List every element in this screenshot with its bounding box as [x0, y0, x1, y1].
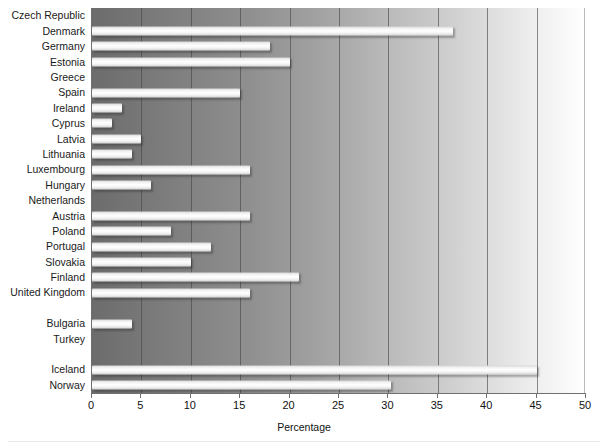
- bar-hungary: [92, 180, 151, 189]
- x-tick-label-15: 15: [233, 399, 245, 411]
- bar-ireland: [92, 104, 122, 113]
- bar-luxembourg: [92, 165, 250, 174]
- x-tick-label-25: 25: [332, 399, 344, 411]
- category-label-luxembourg: Luxembourg: [0, 162, 88, 177]
- category-label-greece: Greece: [0, 70, 88, 85]
- category-axis-labels: Czech RepublicDenmarkGermanyEstoniaGreec…: [0, 8, 88, 393]
- bar-united-kingdom: [92, 288, 250, 297]
- bar-cyprus: [92, 119, 112, 128]
- bar-slovakia: [92, 257, 191, 266]
- x-tick-20: [289, 393, 290, 398]
- plot-area: [91, 8, 585, 393]
- category-label-norway: Norway: [0, 377, 88, 392]
- bar-row: [92, 300, 584, 315]
- category-label-ireland: Ireland: [0, 100, 88, 115]
- category-label-netherlands: Netherlands: [0, 193, 88, 208]
- x-tick-label-50: 50: [579, 399, 591, 411]
- bar-row: [92, 270, 584, 285]
- x-tick-15: [239, 393, 240, 398]
- bar-row: [92, 23, 584, 38]
- category-label-iceland: Iceland: [0, 362, 88, 377]
- chart-screenshot: Czech RepublicDenmarkGermanyEstoniaGreec…: [0, 0, 608, 448]
- bar-poland: [92, 227, 171, 236]
- bar-row: [92, 239, 584, 254]
- bar-row: [92, 8, 584, 23]
- category-label-germany: Germany: [0, 39, 88, 54]
- bar-estonia: [92, 57, 290, 66]
- x-tick-0: [91, 393, 92, 398]
- category-label-austria: Austria: [0, 208, 88, 223]
- bar-row: [92, 208, 584, 223]
- category-label-hungary: Hungary: [0, 177, 88, 192]
- bar-row: [92, 100, 584, 115]
- category-label-united-kingdom: United Kingdom: [0, 285, 88, 300]
- category-label-lithuania: Lithuania: [0, 147, 88, 162]
- x-axis-title: Percentage: [0, 421, 608, 433]
- x-tick-label-35: 35: [431, 399, 443, 411]
- x-tick-label-0: 0: [88, 399, 94, 411]
- x-tick-40: [486, 393, 487, 398]
- x-tick-25: [338, 393, 339, 398]
- bar-row: [92, 254, 584, 269]
- bar-row: [92, 39, 584, 54]
- x-tick-label-20: 20: [282, 399, 294, 411]
- bar-row: [92, 70, 584, 85]
- bar-spain: [92, 88, 240, 97]
- bar-row: [92, 285, 584, 300]
- bar-latvia: [92, 134, 141, 143]
- bar-iceland: [92, 365, 537, 374]
- x-tick-label-40: 40: [480, 399, 492, 411]
- x-tick-label-30: 30: [381, 399, 393, 411]
- category-label-turkey: Turkey: [0, 331, 88, 346]
- bar-bulgaria: [92, 319, 132, 328]
- category-label-poland: Poland: [0, 223, 88, 238]
- bar-row: [92, 331, 584, 346]
- bar-row: [92, 223, 584, 238]
- bar-series: [92, 8, 584, 393]
- bar-row: [92, 85, 584, 100]
- x-tick-45: [536, 393, 537, 398]
- x-tick-10: [190, 393, 191, 398]
- bar-germany: [92, 42, 270, 51]
- bar-row: [92, 347, 584, 362]
- category-label-bulgaria: Bulgaria: [0, 316, 88, 331]
- x-tick-35: [437, 393, 438, 398]
- bar-row: [92, 147, 584, 162]
- bar-row: [92, 131, 584, 146]
- bar-denmark: [92, 27, 453, 36]
- category-label-blank: [0, 347, 88, 362]
- category-label-estonia: Estonia: [0, 54, 88, 69]
- bar-row: [92, 193, 584, 208]
- bar-row: [92, 54, 584, 69]
- x-tick-50: [585, 393, 586, 398]
- category-label-denmark: Denmark: [0, 23, 88, 38]
- x-tick-label-10: 10: [184, 399, 196, 411]
- bar-row: [92, 116, 584, 131]
- bar-row: [92, 377, 584, 392]
- x-tick-label-5: 5: [137, 399, 143, 411]
- category-label-finland: Finland: [0, 270, 88, 285]
- category-label-czech-republic: Czech Republic: [0, 8, 88, 23]
- bar-lithuania: [92, 150, 132, 159]
- bar-portugal: [92, 242, 211, 251]
- x-tick-label-45: 45: [529, 399, 541, 411]
- bar-austria: [92, 211, 250, 220]
- bar-norway: [92, 381, 391, 390]
- bar-finland: [92, 273, 299, 282]
- category-label-slovakia: Slovakia: [0, 254, 88, 269]
- category-label-spain: Spain: [0, 85, 88, 100]
- category-label-blank: [0, 300, 88, 315]
- category-label-latvia: Latvia: [0, 131, 88, 146]
- bar-row: [92, 316, 584, 331]
- x-tick-30: [387, 393, 388, 398]
- category-label-cyprus: Cyprus: [0, 116, 88, 131]
- category-label-portugal: Portugal: [0, 239, 88, 254]
- bottom-divider: [8, 441, 600, 442]
- bar-row: [92, 162, 584, 177]
- x-tick-5: [140, 393, 141, 398]
- bar-row: [92, 177, 584, 192]
- bar-row: [92, 362, 584, 377]
